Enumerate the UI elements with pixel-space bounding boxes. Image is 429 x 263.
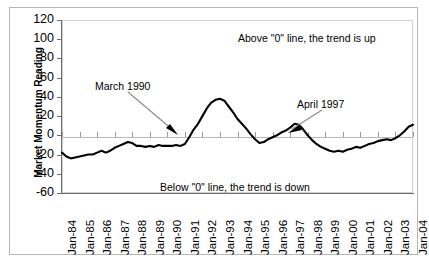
y-tick-label: 80: [0, 51, 54, 63]
x-tick-label: Jan-86: [102, 220, 113, 255]
zero-line-tick: [132, 132, 133, 137]
y-tick-label: -60: [0, 186, 54, 198]
y-tick: [57, 78, 62, 79]
x-axis-line: [62, 193, 414, 194]
y-tick-label: -40: [0, 167, 54, 179]
zero-line-tick: [185, 132, 186, 137]
x-tick-label: Jan-02: [383, 220, 394, 255]
x-tick-label: Jan-93: [225, 220, 236, 255]
zero-line-tick: [150, 132, 151, 137]
x-tick-label: Jan-84: [67, 220, 78, 255]
zero-line-tick: [413, 132, 414, 137]
annotation-march-1990: March 1990: [95, 80, 150, 92]
x-tick-label: Jan-88: [137, 220, 148, 255]
zero-line-tick: [308, 132, 309, 137]
y-tick-label: 40: [0, 90, 54, 102]
y-tick: [57, 116, 62, 117]
zero-line-tick: [238, 132, 239, 137]
x-tick-label: Jan-97: [295, 220, 306, 255]
x-tick-label: Jan-99: [330, 220, 341, 255]
x-tick-label: Jan-91: [190, 220, 201, 255]
y-tick-label: 0: [0, 128, 54, 140]
zero-line-tick: [115, 132, 116, 137]
x-tick-label: Jan-87: [120, 220, 131, 255]
x-tick-label: Jan-96: [278, 220, 289, 255]
annotation-above-zero: Above "0" line, the trend is up: [238, 32, 376, 44]
zero-line-tick: [220, 132, 221, 137]
x-tick-label: Jan-00: [348, 220, 359, 255]
x-tick-label: Jan-98: [313, 220, 324, 255]
x-tick-label: Jan-03: [400, 220, 411, 255]
y-axis-line: [61, 20, 62, 194]
y-tick-label: 20: [0, 109, 54, 121]
x-tick-label: Jan-85: [85, 220, 96, 255]
y-tick-label: -20: [0, 148, 54, 160]
zero-line-tick: [343, 132, 344, 137]
zero-line-tick: [273, 132, 274, 137]
zero-line-tick: [255, 132, 256, 137]
zero-line-tick: [167, 132, 168, 137]
zero-line-tick: [290, 132, 291, 137]
zero-line-tick: [80, 132, 81, 137]
y-tick: [57, 174, 62, 175]
zero-line-tick: [325, 132, 326, 137]
zero-line-tick: [395, 132, 396, 137]
annotation-april-1997: April 1997: [297, 98, 344, 110]
x-tick-label: Jan-94: [243, 220, 254, 255]
y-tick: [57, 97, 62, 98]
y-tick: [57, 193, 62, 194]
zero-line-tick: [62, 132, 63, 137]
x-tick-label: Jan-90: [172, 220, 183, 255]
zero-line-tick: [202, 132, 203, 137]
y-tick-label: 120: [0, 13, 54, 25]
plot-area: [62, 20, 413, 193]
y-tick: [57, 58, 62, 59]
x-tick-label: Jan-04: [418, 220, 429, 255]
zero-line-tick: [360, 132, 361, 137]
y-tick-label: 60: [0, 71, 54, 83]
y-tick-label: 100: [0, 32, 54, 44]
zero-line-tick: [378, 132, 379, 137]
y-tick: [57, 155, 62, 156]
zero-line-tick: [97, 132, 98, 137]
y-tick: [57, 39, 62, 40]
x-tick-label: Jan-01: [365, 220, 376, 255]
annotation-below-zero: Below "0" line, the trend is down: [160, 181, 310, 193]
y-tick: [57, 20, 62, 21]
x-tick-label: Jan-95: [260, 220, 271, 255]
x-tick-label: Jan-92: [207, 220, 218, 255]
x-tick-label: Jan-89: [155, 220, 166, 255]
